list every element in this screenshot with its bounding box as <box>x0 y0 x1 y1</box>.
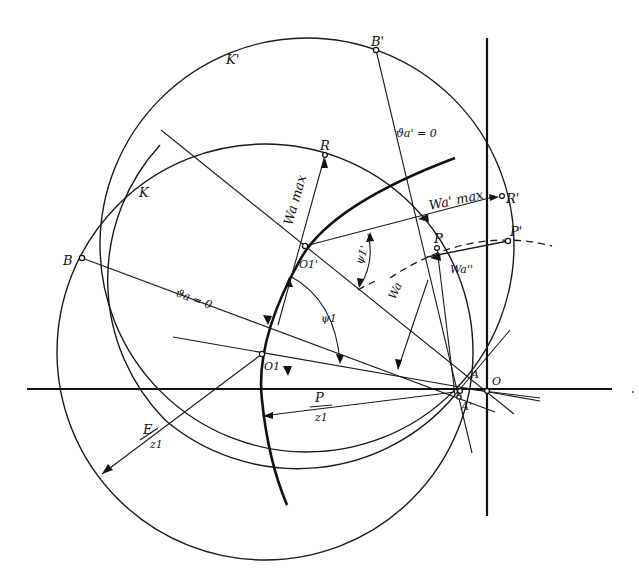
point-r <box>323 153 328 158</box>
line-e-over-z1 <box>102 354 262 474</box>
point-a <box>458 389 463 394</box>
label-r: R <box>319 138 330 153</box>
label-psi1: ψ1 <box>321 312 337 325</box>
point-o1 <box>259 351 264 356</box>
geometric-diagram: K' K B' B R R' P P' O1' O1 A A' O ϑa' = … <box>0 0 639 572</box>
label-o1: O1 <box>264 360 280 373</box>
label-theta-a-prime-zero: ϑa' = 0 <box>396 127 437 140</box>
arrowhead-wa <box>395 359 402 370</box>
label-p: P <box>433 231 443 246</box>
label-o: O <box>492 375 501 388</box>
point-p-prime <box>505 238 510 243</box>
label-theta-a-zero: ϑa = 0 <box>174 287 214 312</box>
label-psi1-prime: ψ1' <box>353 244 372 266</box>
label-k-prime: K' <box>225 52 239 67</box>
label-wa: Wa <box>386 280 405 301</box>
label-e-over-z1-den: z1 <box>149 438 163 451</box>
label-p-over-z1-den: z1 <box>314 411 328 424</box>
label-wa-dprime: Wa'' <box>450 263 473 276</box>
label-p-prime: P' <box>509 224 522 239</box>
arrowhead-psi1prime-top <box>366 232 374 242</box>
point-b <box>79 255 84 260</box>
fraction-bar-p <box>310 405 332 407</box>
label-r-prime: R' <box>505 191 519 206</box>
arrowhead-rprime <box>489 194 499 201</box>
label-a: A <box>470 368 479 381</box>
label-wa-max: Wa max <box>280 173 309 227</box>
point-o1-prime <box>302 243 307 248</box>
point-o <box>485 389 490 394</box>
point-p <box>435 246 440 251</box>
label-b: B <box>62 253 73 268</box>
arrowhead-locus-up <box>285 277 293 287</box>
arrowhead-psi1-top <box>283 366 292 376</box>
stray-dot <box>632 391 634 393</box>
arrowhead-e-over-z1 <box>102 464 113 474</box>
line-p-over-z1 <box>262 392 455 416</box>
inner-arc <box>108 145 455 469</box>
point-r-prime <box>500 194 505 199</box>
label-b-prime: B' <box>370 34 384 49</box>
label-wa-prime-max: Wa' max <box>428 187 486 213</box>
label-k: K <box>138 185 150 200</box>
arrowhead-r <box>321 158 328 168</box>
label-p-over-z1-num: P <box>314 390 324 405</box>
line-a-upright <box>455 330 510 395</box>
label-o1-prime: O1' <box>299 258 318 271</box>
label-a-prime: A' <box>460 400 472 413</box>
point-a-prime <box>457 395 461 399</box>
